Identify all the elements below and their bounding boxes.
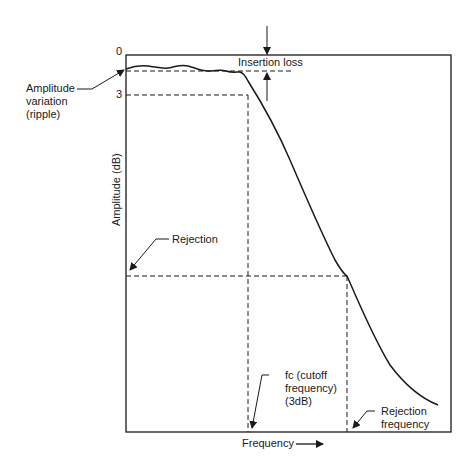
y-tick-3: 3: [116, 88, 122, 101]
y-tick-0: 0: [116, 45, 122, 58]
rejection-label: Rejection: [172, 233, 218, 246]
diagram-canvas: [0, 0, 474, 472]
filter-response-diagram: 0 3 Insertion loss Amplitude variation (…: [0, 0, 474, 472]
rejection-leader-arrow: [130, 239, 169, 270]
cutoff-frequency-label: fc (cutoff frequency) (3dB): [285, 369, 337, 408]
x-axis-label: Frequency: [242, 437, 294, 450]
y-axis-label: Amplitude (dB): [110, 153, 122, 226]
ripple-leader-arrow: [77, 70, 124, 89]
cutoff-leader-arrow: [252, 375, 269, 428]
ripple-label: Amplitude variation (ripple): [26, 82, 75, 121]
rejection-frequency-label: Rejection frequency: [381, 405, 429, 431]
rejection-frequency-leader-arrow: [353, 411, 375, 428]
insertion-loss-label: Insertion loss: [238, 56, 303, 69]
